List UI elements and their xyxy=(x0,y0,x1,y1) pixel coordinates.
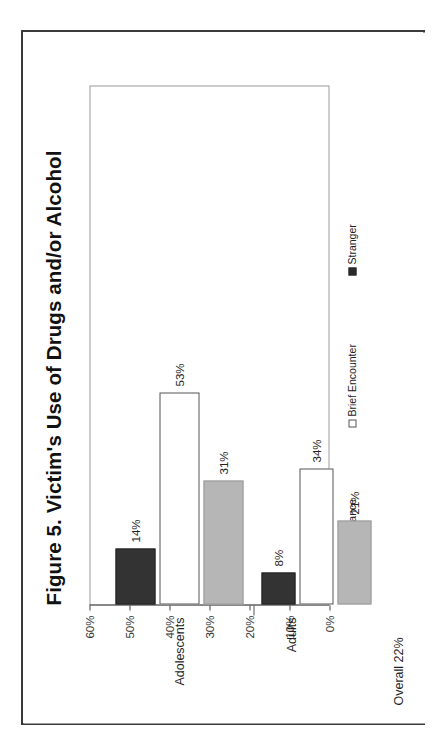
bar-label-adolescents-stranger: 14% xyxy=(129,519,141,542)
legend-item-brief-encounter: Brief Encounter xyxy=(345,344,357,427)
group-separator-1 xyxy=(253,605,254,615)
page-title: Figure 5. Victim's Use of Drugs and/or A… xyxy=(41,32,65,723)
legend-swatch-stranger-icon xyxy=(348,267,356,275)
legend-item-stranger: Stranger xyxy=(345,224,357,275)
bar-label-adolescents-brief-encounter: 53% xyxy=(173,363,185,386)
figure-page: Figure 5. Victim's Use of Drugs and/or A… xyxy=(0,0,445,755)
overall-annotation: Overall 22% xyxy=(391,637,405,705)
axis-label-20: 20% xyxy=(243,615,255,638)
rotation-wrapper: Figure 5. Victim's Use of Drugs and/or A… xyxy=(23,32,427,723)
legend-label-brief-encounter: Brief Encounter xyxy=(345,344,357,416)
axis-tick-50 xyxy=(129,605,130,610)
bar-adults-acquaintance xyxy=(337,520,371,604)
bar-label-adults-stranger: 8% xyxy=(272,549,284,566)
axis-tick-40 xyxy=(169,605,170,610)
axis-tick-20 xyxy=(249,605,250,610)
group-label-adults: Adults xyxy=(284,617,298,652)
bar-adults-stranger xyxy=(261,572,295,604)
legend-label-stranger: Stranger xyxy=(345,224,357,264)
chart-canvas: Figure 5. Victim's Use of Drugs and/or A… xyxy=(23,32,427,723)
legend-swatch-brief-encounter-icon xyxy=(348,419,356,427)
bar-adolescents-acquaintance xyxy=(203,480,243,604)
axis-label-0: 0% xyxy=(323,615,335,632)
group-label-adolescents: Adolescents xyxy=(172,617,186,685)
figure-frame: Figure 5. Victim's Use of Drugs and/or A… xyxy=(21,30,425,725)
axis-label-60: 60% xyxy=(83,615,95,638)
bar-adolescents-brief-encounter xyxy=(159,392,199,604)
axis-tick-30 xyxy=(209,605,210,610)
axis-tick-0 xyxy=(329,605,330,610)
bar-adults-brief-encounter xyxy=(299,468,333,604)
axis-tick-60 xyxy=(89,605,90,610)
bar-label-adolescents-acquaintance: 31% xyxy=(217,451,229,474)
axis-label-50: 50% xyxy=(123,615,135,638)
axis-label-30: 30% xyxy=(203,615,215,638)
axis-tick-10 xyxy=(289,605,290,610)
bar-label-adults-acquaintance: 21% xyxy=(348,491,360,514)
bar-label-adults-brief-encounter: 34% xyxy=(310,439,322,462)
bar-adolescents-stranger xyxy=(115,548,155,604)
